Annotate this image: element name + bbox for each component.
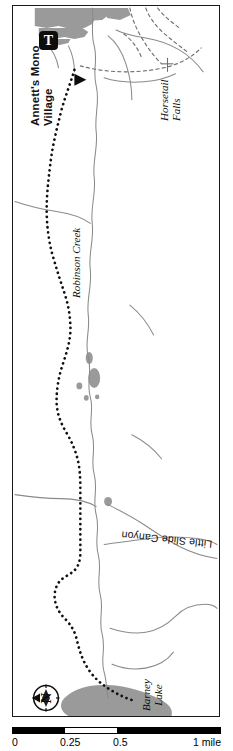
scale-bar-group: 0 0.25 0.5 1 mile (12, 727, 221, 749)
pond-polygons (76, 352, 112, 506)
scale-segment-0p25-0p5 (65, 728, 117, 733)
scale-bar-labels: 0 0.25 0.5 1 mile (12, 736, 221, 750)
map-frame: Annett's Mono Village Horsetail Falls Ro… (12, 5, 220, 717)
trailhead-marker-letter: T (44, 34, 53, 48)
scale-tick-0p5: 0.5 (113, 736, 128, 748)
topographic-trail-map: Annett's Mono Village Horsetail Falls Ro… (0, 0, 233, 751)
stream-lines (15, 8, 217, 698)
scale-tick-0p25: 0.25 (60, 736, 80, 748)
north-arrow-icon: N (31, 683, 61, 713)
junction-triangle-marker (74, 74, 86, 86)
horsetail-falls-symbol (162, 58, 174, 72)
scale-bar (12, 727, 221, 734)
scale-unit-label: 1 mile (193, 736, 221, 748)
scale-tick-0: 0 (12, 736, 18, 748)
scale-segment-0-0p25 (13, 728, 65, 733)
scale-segment-0p5-1 (117, 728, 221, 733)
map-canvas (13, 6, 219, 716)
trailhead-marker-icon[interactable]: T (39, 31, 58, 50)
barney-lake-polygon (61, 685, 172, 716)
